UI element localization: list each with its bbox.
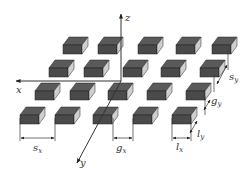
gy-label: gy [211,95,222,108]
block [63,37,88,54]
block-array-diagram: x z y sx gx lx ly gy sy [0,0,250,178]
block [186,83,211,100]
block [138,37,163,54]
gx-label: gx [116,142,126,155]
x-axis-label: x [16,84,22,95]
z-axis-label: z [124,12,131,23]
block [161,60,186,77]
sx-label: sx [33,142,42,155]
block [55,107,80,124]
block [172,107,197,124]
block [35,83,60,100]
block [49,60,74,77]
block [20,107,45,124]
sy-label: sy [229,71,239,84]
ly-label: ly [197,128,205,141]
block [123,60,148,77]
y-axis-label: y [79,157,86,168]
block [147,83,172,100]
block [70,83,95,100]
lx-label: lx [176,141,183,154]
block [212,37,237,54]
block [133,107,158,124]
block [176,37,201,54]
block [98,37,123,54]
block [200,60,225,77]
block [84,60,109,77]
